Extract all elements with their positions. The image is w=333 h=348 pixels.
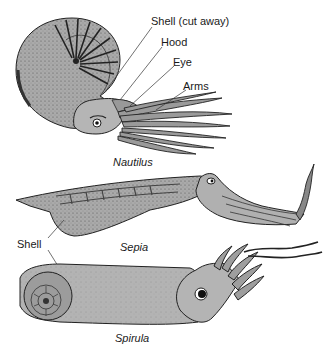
label-eye: Eye bbox=[173, 56, 192, 68]
label-shell-cut-away: Shell (cut away) bbox=[151, 15, 229, 27]
sepia-drawing bbox=[16, 164, 314, 266]
caption-nautilus: Nautilus bbox=[113, 156, 153, 168]
caption-spirula: Spirula bbox=[115, 332, 149, 344]
label-hood: Hood bbox=[161, 36, 187, 48]
label-shell: Shell bbox=[17, 238, 41, 250]
caption-sepia: Sepia bbox=[120, 241, 148, 253]
label-arms: Arms bbox=[183, 80, 209, 92]
illustration bbox=[0, 0, 333, 348]
cephalopod-diagram: Shell (cut away) Hood Eye Arms Nautilus … bbox=[0, 0, 333, 348]
sepia-body bbox=[16, 176, 212, 236]
spirula-drawing bbox=[20, 242, 322, 324]
